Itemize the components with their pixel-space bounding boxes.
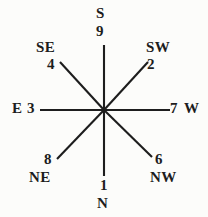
compass-ray-diagram: S 9 SE 4 SW 2 E 3 7 W 8 NE 6 NW 1 N <box>0 0 208 217</box>
direction-label-n: N <box>97 196 108 211</box>
ray-line-se <box>60 62 104 110</box>
ray-number-7: 7 <box>170 101 178 116</box>
ray-number-2: 2 <box>147 57 155 72</box>
ray-line-sw <box>104 62 148 110</box>
direction-label-sw: SW <box>146 40 170 55</box>
direction-label-ne: NE <box>29 170 51 185</box>
direction-label-w: W <box>184 101 200 116</box>
direction-label-se: SE <box>36 40 55 55</box>
ray-number-1: 1 <box>100 178 108 193</box>
ray-number-4: 4 <box>47 57 55 72</box>
direction-label-s: S <box>96 6 105 21</box>
direction-label-nw: NW <box>150 170 177 185</box>
ray-number-3: 3 <box>27 101 35 116</box>
ray-line-nw <box>104 110 152 157</box>
ray-number-8: 8 <box>44 152 52 167</box>
ray-number-9: 9 <box>96 24 104 39</box>
direction-label-e: E <box>12 101 23 116</box>
ray-line-ne <box>57 110 104 159</box>
ray-number-6: 6 <box>155 152 163 167</box>
